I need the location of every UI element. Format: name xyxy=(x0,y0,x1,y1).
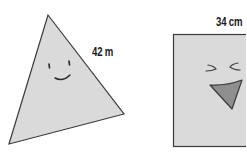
square-shape xyxy=(174,35,247,147)
triangle-side-length-label: 42 m xyxy=(92,45,113,59)
shapes-drawing xyxy=(0,0,246,156)
figure-canvas: 42 m 34 cm xyxy=(0,0,246,156)
square-side-length-label: 34 cm xyxy=(216,15,242,29)
triangle-shape xyxy=(9,15,124,144)
